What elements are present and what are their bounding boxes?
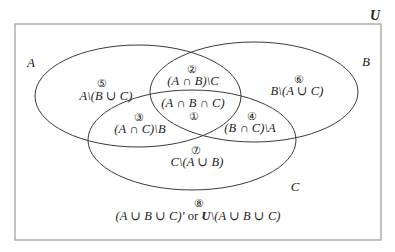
region-8-complement: (A ∪ B ∪ C)′ [115, 209, 184, 223]
region-3-expression: (A ∩ C)\B [114, 123, 165, 136]
region-5-number: ⑤ [97, 78, 107, 89]
region-4-expression: (B ∩ C)\A [224, 122, 276, 135]
region-2-expression: (A ∩ B)\C [167, 75, 218, 88]
region-8-number: ⑧ [194, 198, 204, 209]
region-8-universe: U [202, 209, 211, 223]
set-b-label: B [362, 55, 370, 68]
set-c-label: C [291, 180, 300, 193]
region-8-expression: (A ∪ B ∪ C)′ or U\(A ∪ B ∪ C) [115, 210, 280, 223]
region-8-difference: \(A ∪ B ∪ C) [211, 209, 281, 223]
universe-label: U [370, 9, 380, 23]
set-a-label: A [27, 56, 35, 69]
region-5-expression: A\(B ∪ C) [79, 90, 132, 103]
region-1-number: ① [189, 111, 199, 122]
region-7-expression: C\(A ∪ B) [171, 156, 224, 169]
region-1-expression: (A ∩ B ∩ C) [161, 97, 224, 110]
region-8-or: or [188, 209, 199, 223]
region-6-expression: B\(A ∪ C) [271, 85, 324, 98]
